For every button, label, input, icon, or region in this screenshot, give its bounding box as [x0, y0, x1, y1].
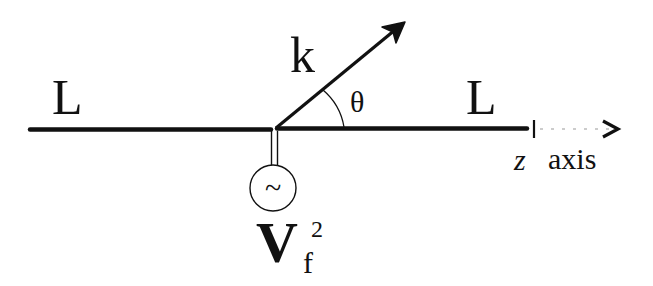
left-segment-label: L [52, 69, 83, 125]
z-axis-word-label: axis [548, 142, 596, 175]
z-axis-arrowhead-icon [603, 121, 618, 137]
z-axis-variable-label: z [513, 143, 526, 176]
source-voltage-superscript: 2 [311, 216, 323, 242]
theta-angle-arc [323, 90, 344, 127]
angle-theta-label: θ [350, 85, 364, 118]
source-voltage-label: V [256, 210, 298, 275]
antenna-diagram: ~ L L k θ z axis V f 2 [0, 0, 653, 286]
source-voltage-subscript: f [303, 246, 313, 279]
ac-source-symbol-icon: ~ [265, 171, 281, 204]
wave-vector-label: k [290, 27, 315, 83]
right-segment-label: L [466, 69, 497, 125]
